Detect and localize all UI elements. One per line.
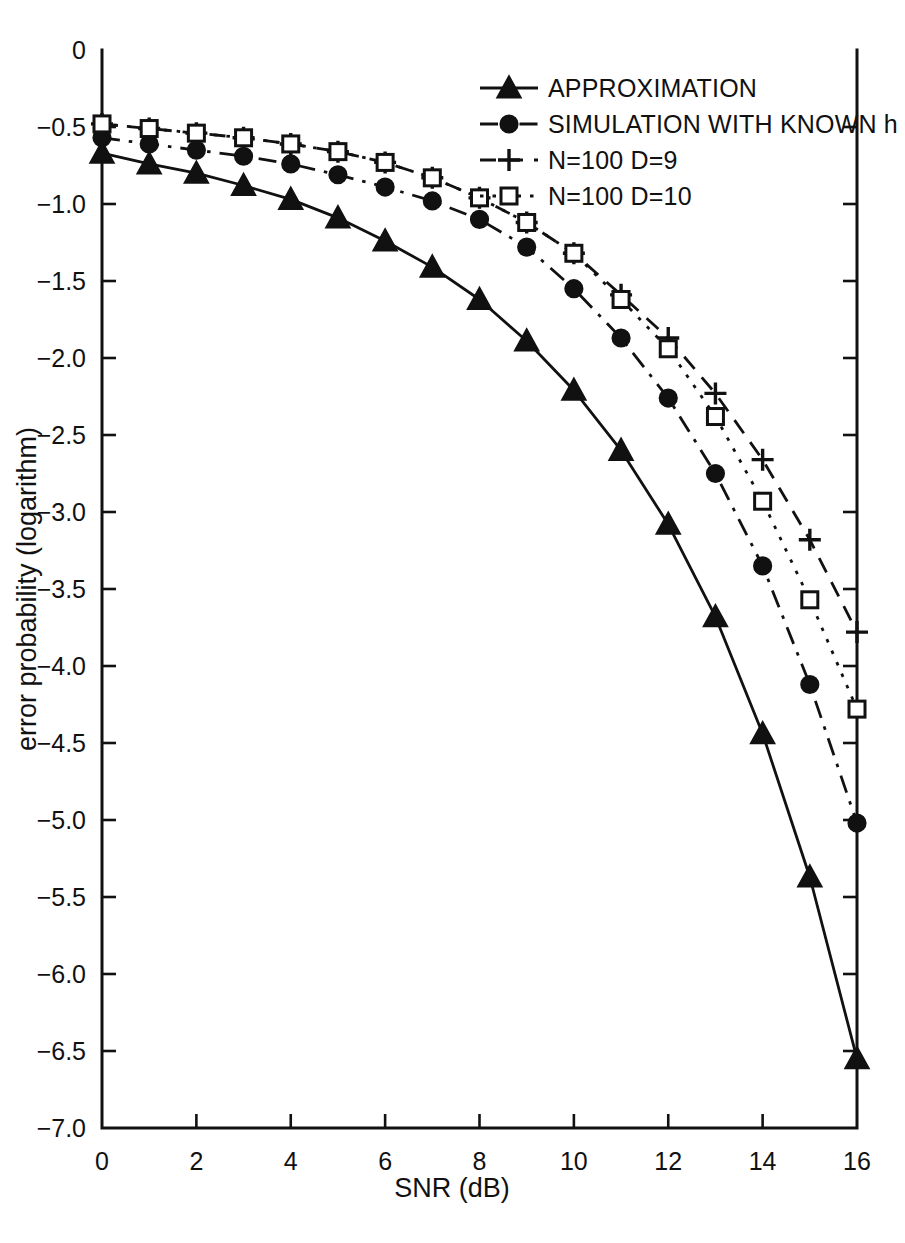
y-tick-label: −2.5 [37,421,86,449]
data-point-marker [566,245,582,261]
data-point-marker [329,166,346,183]
x-tick-label: 8 [473,1147,487,1175]
data-point-marker [660,341,676,357]
data-point-marker [377,179,394,196]
x-tick-label: 0 [95,1147,109,1175]
y-tick-label: −7.0 [37,1114,86,1142]
data-point-marker [801,676,818,693]
data-point-marker [424,170,440,186]
y-axis-title: error probability (logarithm) [12,427,42,751]
y-tick-label: −4.0 [37,652,86,680]
x-tick-label: 10 [560,1147,588,1175]
data-point-marker [141,121,157,137]
data-point-marker [565,280,582,297]
data-point-marker [236,130,252,146]
data-point-marker [424,192,441,209]
x-tick-label: 12 [654,1147,682,1175]
data-point-marker [282,155,299,172]
data-point-marker [188,125,204,141]
data-point-marker [519,214,535,230]
data-point-marker [283,136,299,152]
error-probability-vs-snr-chart: 0246810121416 0−0.5−1.0−1.5−2.0−2.5−3.0−… [0,0,905,1243]
x-tick-label: 14 [749,1147,777,1175]
data-point-marker [472,190,488,206]
chart-figure: 0246810121416 0−0.5−1.0−1.5−2.0−2.5−3.0−… [0,0,905,1243]
data-point-marker [235,148,252,165]
data-point-marker [501,188,517,204]
data-point-marker [849,815,866,832]
x-tick-label: 4 [284,1147,298,1175]
y-tick-label: −0.5 [37,113,86,141]
y-tick-label: 0 [72,36,86,64]
legend-label[interactable]: SIMULATION WITH KNOWN h [548,110,898,138]
y-tick-label: −4.5 [37,729,86,757]
data-point-marker [707,465,724,482]
legend-label[interactable]: N=100 D=10 [548,182,692,210]
y-tick-label: −3.0 [37,498,86,526]
x-tick-label: 6 [378,1147,392,1175]
legend-label[interactable]: N=100 D=9 [548,146,678,174]
y-tick-label: −2.0 [37,344,86,372]
data-point-marker [501,116,518,133]
data-point-marker [802,592,818,608]
data-point-marker [754,557,771,574]
y-tick-label: −6.5 [37,1037,86,1065]
y-tick-label: −1.5 [37,267,86,295]
data-point-marker [755,493,771,509]
y-tick-label: −5.0 [37,806,86,834]
data-point-marker [330,144,346,160]
y-tick-label: −5.5 [37,883,86,911]
data-point-marker [94,116,110,132]
data-point-marker [707,409,723,425]
legend-label[interactable]: APPROXIMATION [548,74,757,102]
y-axis-tick-labels: 0−0.5−1.0−1.5−2.0−2.5−3.0−3.5−4.0−4.5−5.… [37,36,86,1142]
data-point-marker [471,211,488,228]
x-tick-label: 16 [843,1147,871,1175]
x-tick-label: 2 [189,1147,203,1175]
y-tick-label: −6.0 [37,960,86,988]
x-axis-title: SNR (dB) [394,1173,510,1203]
y-tick-label: −1.0 [37,190,86,218]
data-point-marker [660,390,677,407]
data-point-marker [518,239,535,256]
y-tick-label: −3.5 [37,575,86,603]
data-point-marker [613,291,629,307]
data-point-marker [849,701,865,717]
data-point-marker [377,154,393,170]
data-point-marker [613,329,630,346]
